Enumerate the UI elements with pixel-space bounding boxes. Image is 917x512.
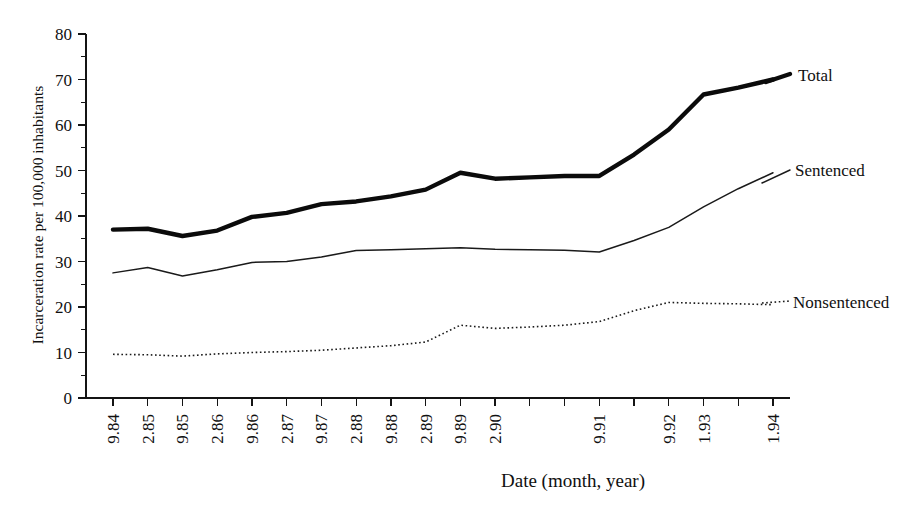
x-tick-label: 9.86 bbox=[243, 414, 262, 444]
x-tick-label: 2.85 bbox=[139, 414, 158, 444]
y-tick-label: 20 bbox=[55, 298, 72, 317]
y-tick-label: 80 bbox=[55, 25, 72, 44]
y-tick-label: 40 bbox=[55, 207, 72, 226]
legend-leader-total bbox=[766, 74, 790, 82]
chart-figure: Incarceration rate per 100,000 inhabitan… bbox=[0, 0, 917, 512]
x-tick-label: 9.87 bbox=[312, 414, 331, 444]
legend-label-total: Total bbox=[798, 66, 833, 85]
x-tick-label: 2.90 bbox=[486, 414, 505, 444]
y-tick-label: 30 bbox=[55, 253, 72, 272]
y-tick-label: 0 bbox=[64, 389, 73, 408]
legend-label-nonsentenced: Nonsentenced bbox=[793, 293, 890, 312]
legend-leader-nonsentenced bbox=[762, 301, 790, 303]
x-tick-label: 2.89 bbox=[417, 414, 436, 444]
x-tick-label: 2.88 bbox=[347, 414, 366, 444]
legend-label-sentenced: Sentenced bbox=[795, 161, 865, 180]
x-tick-label: 9.88 bbox=[382, 414, 401, 444]
x-axis-title: Date (month, year) bbox=[501, 470, 645, 492]
line-chart: Incarceration rate per 100,000 inhabitan… bbox=[0, 0, 917, 512]
x-tick-label: 2.87 bbox=[278, 414, 297, 444]
x-axis-ticks bbox=[113, 398, 773, 406]
y-tick-label: 10 bbox=[55, 344, 72, 363]
x-tick-label: 1.94 bbox=[764, 414, 783, 444]
x-tick-label: 1.93 bbox=[695, 414, 714, 444]
y-axis-title: Incarceration rate per 100,000 inhabitan… bbox=[29, 86, 46, 345]
x-tick-label: 2.86 bbox=[208, 414, 227, 444]
y-tick-label: 50 bbox=[55, 162, 72, 181]
y-tick-label: 60 bbox=[55, 116, 72, 135]
series-line-nonsentenced bbox=[113, 302, 773, 356]
x-tick-label: 9.91 bbox=[590, 414, 609, 444]
x-tick-label: 9.92 bbox=[660, 414, 679, 444]
x-axis-tick-labels: 9.842.859.852.869.862.879.872.889.882.89… bbox=[104, 414, 783, 444]
x-tick-label: 9.85 bbox=[173, 414, 192, 444]
series-line-total bbox=[113, 80, 773, 237]
x-tick-label: 9.84 bbox=[104, 414, 123, 444]
y-axis-ticks: 01020304050607080 bbox=[55, 25, 86, 408]
x-tick-label: 9.89 bbox=[451, 414, 470, 444]
series-line-sentenced bbox=[113, 173, 773, 276]
y-tick-label: 70 bbox=[55, 71, 72, 90]
